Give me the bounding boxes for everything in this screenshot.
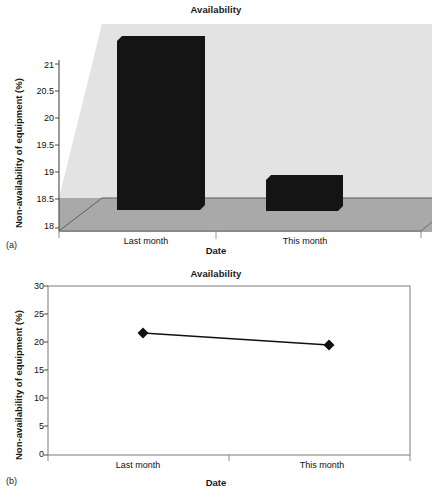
- figure-page: Availability Non-availability of equipme…: [0, 0, 432, 502]
- chart-a-x-axis-title: Date: [0, 245, 432, 256]
- chart-b-xtick-this-month: This month: [262, 460, 382, 470]
- panel-b-label: (b): [6, 476, 17, 486]
- chart-b-xtick-last-month: Last month: [78, 460, 198, 470]
- chart-b-x-axis-title: Date: [0, 477, 432, 488]
- chart-b-plot-frame: [48, 286, 410, 455]
- panel-b-line-chart: Availability Non-availability of equipme…: [0, 258, 432, 502]
- chart-a-bar-this-month: [266, 175, 343, 211]
- chart-a-back-wall-main: [59, 24, 432, 198]
- chart-a-floor-left-wedge: [59, 198, 432, 231]
- chart-a-bar-last-month: [117, 36, 205, 210]
- panel-a-label: (a): [6, 240, 17, 250]
- chart-a-plot-area: [0, 0, 432, 258]
- panel-a-3d-bar-chart: Availability Non-availability of equipme…: [0, 0, 432, 258]
